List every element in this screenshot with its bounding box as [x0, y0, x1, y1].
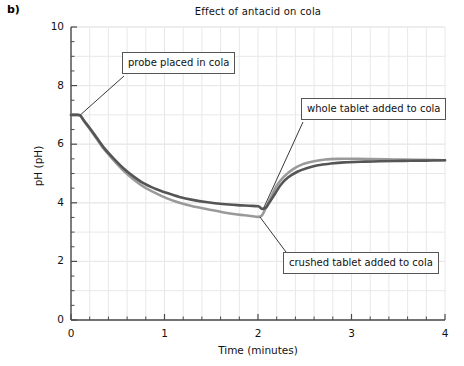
x-tick-label: 0: [61, 327, 81, 339]
y-tick-label: 0: [44, 313, 64, 325]
y-tick-label: 4: [44, 196, 64, 208]
panel-letter: b): [7, 3, 20, 16]
y-tick-label: 6: [44, 137, 64, 149]
x-tick-label: 4: [435, 327, 455, 339]
x-tick-label: 2: [248, 327, 268, 339]
annotation-leader-lines: [80, 76, 303, 252]
x-tick-label: 1: [155, 327, 175, 339]
annotation-whole-tablet-added-to-cola: whole tablet added to cola: [301, 98, 446, 120]
chart-title: Effect of antacid on cola: [71, 6, 445, 17]
y-tick-label: 8: [44, 79, 64, 91]
x-axis-label: Time (minutes): [71, 344, 445, 356]
y-tick-label: 2: [44, 254, 64, 266]
chart-figure: b) Effect of antacid on cola 01234 02468…: [0, 0, 464, 366]
annotation-crushed-tablet-added-to-cola: crushed tablet added to cola: [283, 252, 439, 274]
y-axis-label: pH (pH): [32, 106, 44, 226]
annotation-probe-placed-in-cola: probe placed in cola: [122, 52, 235, 74]
x-tick-label: 3: [342, 327, 362, 339]
y-tick-label: 10: [44, 20, 64, 32]
